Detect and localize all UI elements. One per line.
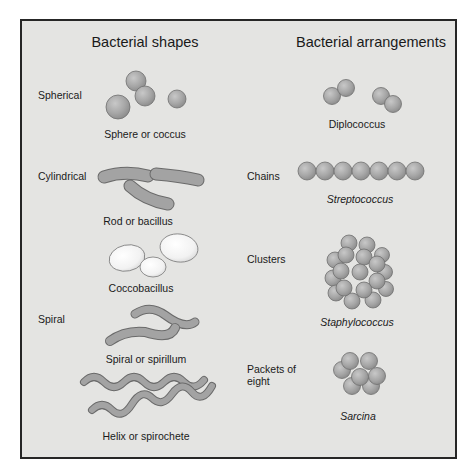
spirochete-illustration — [84, 377, 212, 414]
caption-coccobacillus: Coccobacillus — [109, 282, 174, 294]
category-label-spiral: Spiral — [38, 313, 65, 325]
bacteria-illustrations — [0, 0, 473, 476]
caption-diplococcus: Diplococcus — [329, 118, 386, 130]
caption-coccus: Sphere or coccus — [104, 128, 186, 140]
caption-spirochete: Helix or spirochete — [103, 430, 190, 442]
shapes-column-title: Bacterial shapes — [91, 34, 198, 50]
coccus-illustration — [106, 71, 186, 119]
caption-bacillus: Rod or bacillus — [103, 215, 172, 227]
arrangement-label-clusters: Clusters — [247, 253, 286, 265]
arrangement-label-packets-line1: Packets of — [247, 363, 296, 375]
arrangement-label-packets-line2: eight — [247, 375, 270, 387]
staphylococcus-illustration — [325, 235, 394, 309]
caption-staphylococcus: Staphylococcus — [320, 316, 394, 328]
category-label-cylindrical: Cylindrical — [38, 170, 86, 182]
caption-sarcina: Sarcina — [340, 410, 376, 422]
caption-spirillum: Spiral or spirillum — [106, 353, 187, 365]
caption-streptococcus: Streptococcus — [327, 193, 394, 205]
diplococcus-illustration — [324, 80, 402, 113]
spirillum-illustration — [110, 309, 195, 341]
streptococcus-illustration — [298, 162, 424, 180]
arrangement-label-chains: Chains — [247, 170, 280, 182]
arrangements-column-title: Bacterial arrangements — [296, 34, 446, 50]
coccobacillus-illustration — [107, 231, 200, 277]
sarcina-illustration — [334, 353, 386, 395]
bacillus-illustration — [104, 173, 198, 204]
category-label-spherical: Spherical — [38, 89, 82, 101]
